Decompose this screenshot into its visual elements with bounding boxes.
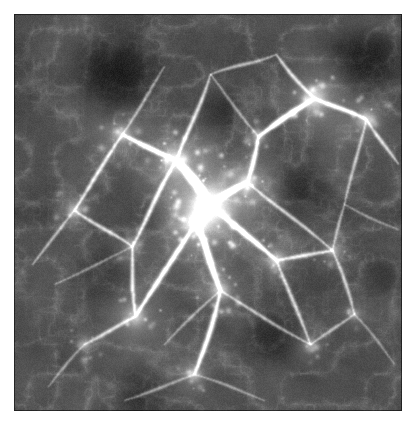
- figure-page: Grayscale projected density map of a cos…: [0, 0, 416, 429]
- density-map-panel: [14, 14, 402, 411]
- cosmic-web-density-canvas: [14, 14, 402, 411]
